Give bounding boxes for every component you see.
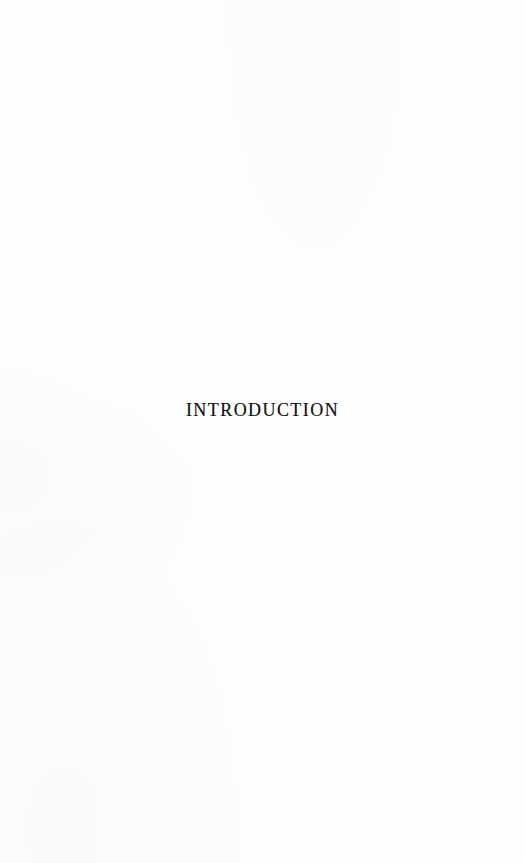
document-page: Introduction bbox=[0, 0, 525, 863]
section-title-block: Introduction bbox=[0, 0, 525, 421]
page-title: Introduction bbox=[186, 395, 339, 421]
